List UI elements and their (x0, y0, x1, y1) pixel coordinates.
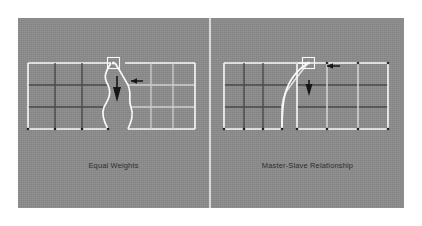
down-arrow-icon (306, 80, 313, 96)
selected-vertex[interactable] (307, 61, 310, 64)
right-mesh-master-slave (296, 62, 390, 131)
diagram-equal-weights (18, 18, 209, 208)
mesh-vertex (54, 128, 57, 131)
selected-vertex[interactable] (112, 61, 115, 64)
mesh-vertex (387, 62, 390, 65)
mesh-vertex (357, 128, 360, 131)
right-mesh-equal-weights (115, 63, 195, 129)
panel-master-slave: Master-Slave Relationship (211, 18, 404, 208)
left-mesh-master-slave (223, 63, 308, 130)
mesh-vertex (81, 128, 84, 131)
panel-equal-weights: Equal Weights (18, 18, 209, 208)
mesh-vertex (387, 128, 390, 131)
caption-master-slave: Master-Slave Relationship (211, 161, 404, 170)
figure-root: Equal Weights (0, 0, 422, 226)
mesh-vertex (296, 128, 299, 131)
diagram-master-slave (211, 18, 404, 208)
left-arrow-icon (131, 78, 143, 84)
deformed-edge-curve (282, 63, 308, 129)
mesh-vertex (107, 128, 110, 131)
mesh-vertex (27, 128, 30, 131)
left-mesh-equal-weights (27, 63, 111, 130)
mesh-vertex (326, 62, 329, 65)
mesh-vertex (296, 62, 299, 65)
master-curve-straight (282, 63, 308, 129)
mesh-vertex (357, 62, 360, 65)
mesh-vertex (262, 128, 265, 131)
down-arrow-icon (113, 76, 121, 102)
mesh-vertex (326, 128, 329, 131)
mesh-vertex (243, 128, 246, 131)
mesh-vertex (223, 128, 226, 131)
mesh-vertex (281, 128, 284, 131)
left-arrow-icon (327, 63, 340, 69)
caption-equal-weights: Equal Weights (18, 161, 209, 170)
deformed-edge-curve (103, 63, 111, 129)
